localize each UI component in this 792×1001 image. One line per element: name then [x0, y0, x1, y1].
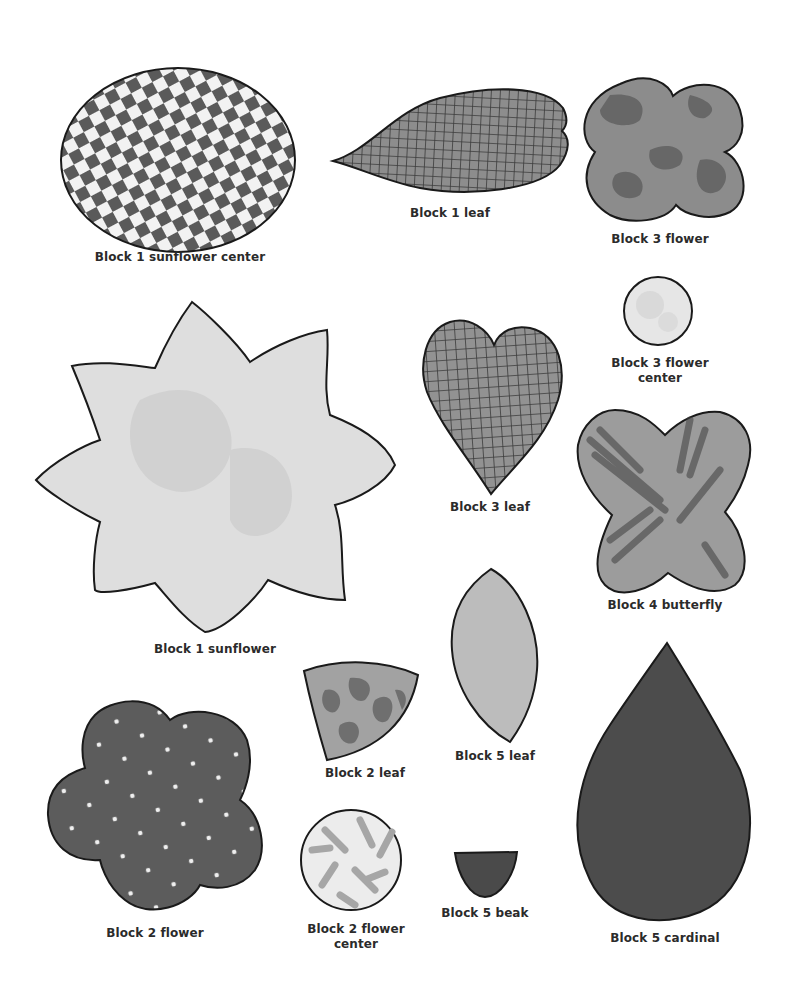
block2-flower-shape: [48, 701, 262, 909]
shapes-canvas: [0, 0, 792, 1001]
block2-leaf-shape: [304, 662, 418, 760]
block2-flower-center-shape: [301, 810, 401, 910]
label-line-1: Block 3 flower: [600, 356, 720, 371]
block3-flower-label: Block 3 flower: [600, 232, 720, 247]
block3-leaf-shape: [423, 321, 561, 494]
block1-sunflower-center-label: Block 1 sunflower center: [80, 250, 280, 265]
block1-leaf-shape: [333, 89, 568, 192]
block5-cardinal-label: Block 5 cardinal: [600, 931, 730, 946]
block2-flower-label: Block 2 flower: [95, 926, 215, 941]
block4-butterfly-shape: [578, 410, 751, 592]
block3-flower-center-label: Block 3 flower center: [600, 356, 720, 386]
block5-cardinal-shape: [577, 643, 750, 920]
block1-sunflower-center-shape: [61, 68, 295, 252]
block3-flower-center-shape: [624, 277, 692, 345]
block2-flower-center-label: Block 2 flower center: [296, 922, 416, 952]
label-line-2: center: [600, 371, 720, 386]
block3-flower-shape: [584, 78, 743, 220]
block1-sunflower-shape: [36, 302, 395, 632]
block1-leaf-label: Block 1 leaf: [395, 206, 505, 221]
block5-leaf-label: Block 5 leaf: [445, 749, 545, 764]
block5-beak-shape: [455, 852, 517, 897]
label-line-1: Block 2 flower: [296, 922, 416, 937]
template-sheet: Block 1 sunflower center Block 1 leaf Bl…: [0, 0, 792, 1001]
block3-leaf-label: Block 3 leaf: [440, 500, 540, 515]
block5-leaf-shape: [452, 569, 538, 742]
label-line-2: center: [296, 937, 416, 952]
block1-sunflower-label: Block 1 sunflower: [140, 642, 290, 657]
block5-beak-label: Block 5 beak: [430, 906, 540, 921]
block2-leaf-label: Block 2 leaf: [310, 766, 420, 781]
block4-butterfly-label: Block 4 butterfly: [600, 598, 730, 613]
